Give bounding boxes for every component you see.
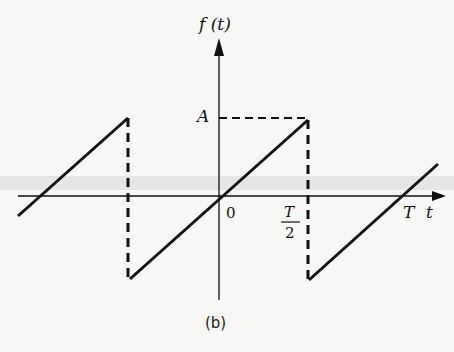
ramp-left	[18, 118, 128, 216]
origin-label: 0	[226, 204, 236, 222]
half-period-denominator: 2	[285, 224, 295, 242]
sawtooth-figure: f (t) A 0 T 2 T t (b)	[0, 0, 454, 352]
plot-canvas	[0, 0, 454, 352]
ramp-right	[309, 164, 438, 280]
y-axis-arrow-icon	[214, 38, 224, 56]
amplitude-label: A	[197, 106, 209, 126]
figure-caption: (b)	[205, 314, 226, 332]
period-label: T	[403, 202, 414, 222]
x-axis-arrow-icon	[432, 191, 446, 201]
half-period-numerator: T	[284, 203, 294, 221]
y-axis-label: f (t)	[199, 14, 231, 34]
x-axis-label: t	[426, 202, 433, 222]
